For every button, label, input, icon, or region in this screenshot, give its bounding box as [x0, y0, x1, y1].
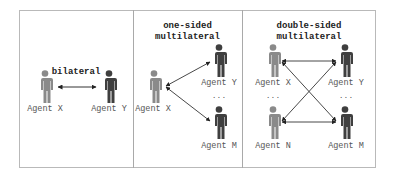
diagram-canvas: bilateral Agent X Agent Y one-sided mult… — [0, 0, 395, 180]
ellipsis: ... — [266, 91, 280, 100]
person-icon — [264, 44, 282, 78]
ellipsis: ... — [339, 91, 353, 100]
arrow-x-m-onesided — [166, 87, 210, 121]
agent-label: Agent M — [328, 141, 364, 151]
person-icon — [36, 70, 54, 104]
panel-title-line1: one-sided — [133, 21, 242, 32]
agent-label: Agent N — [255, 141, 291, 151]
person-icon — [336, 106, 354, 140]
agent-label: Agent X — [135, 104, 171, 114]
person-icon — [145, 70, 163, 104]
agent-label: Agent Y — [91, 104, 127, 114]
ellipsis: ... — [212, 91, 226, 100]
agent-label: Agent X — [27, 104, 63, 114]
person-icon — [336, 44, 354, 78]
person-icon — [100, 70, 118, 104]
agent-label: Agent Y — [201, 78, 237, 88]
panel-title-line2: multilateral — [242, 32, 376, 43]
panel-title-line1: double-sided — [242, 21, 376, 32]
agent-label: Agent X — [255, 78, 291, 88]
panel-title-line2: multilateral — [133, 32, 242, 43]
person-icon — [264, 106, 282, 140]
agent-label: Agent Y — [328, 78, 364, 88]
person-icon — [210, 106, 228, 140]
person-icon — [210, 44, 228, 78]
agent-label: Agent M — [201, 141, 237, 151]
